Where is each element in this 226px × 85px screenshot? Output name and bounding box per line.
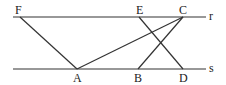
label-D: D xyxy=(179,71,188,85)
label-C: C xyxy=(179,3,187,17)
label-A: A xyxy=(73,71,82,85)
label-r: r xyxy=(209,9,213,23)
segment-FA xyxy=(20,17,77,69)
diagram-canvas: F E C r A B D s xyxy=(0,0,226,85)
label-F: F xyxy=(15,3,22,17)
label-E: E xyxy=(136,3,143,17)
segment-AC xyxy=(77,17,183,69)
label-s: s xyxy=(209,61,214,75)
geometry-diagram: F E C r A B D s xyxy=(0,0,226,85)
label-B: B xyxy=(134,71,142,85)
